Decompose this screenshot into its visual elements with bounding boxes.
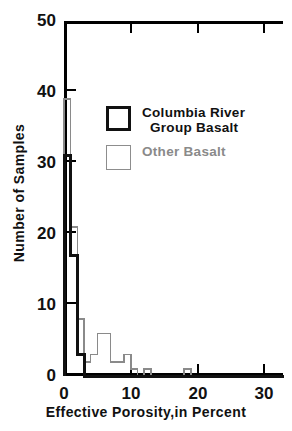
legend-label-crgb-line1: Columbia River [142,105,245,120]
x-tick-label-20: 20 [178,384,218,404]
legend-swatch-icon-crgb [106,106,131,131]
x-tick-label-10: 10 [111,384,151,404]
y-tick-label-0: 0 [8,366,56,386]
legend-item-columbia-river-group-basalt: Columbia RiverGroup Basalt [106,105,245,135]
y-tick-label-50: 50 [8,11,56,31]
legend-item-other-basalt: Other Basalt [106,144,245,170]
plot-area [64,21,283,376]
histogram-chart: 50 40 30 20 10 0 0 10 20 30 Effective Po… [0,0,292,431]
x-tick-label-0: 0 [44,384,84,404]
x-axis-title: Effective Porosity,in Percent [0,404,292,420]
legend-label-other: Other Basalt [142,144,226,159]
legend-label-crgb: Columbia RiverGroup Basalt [142,105,245,135]
legend: Columbia RiverGroup Basalt Other Basalt [106,105,245,179]
legend-swatch-icon-other [106,145,131,170]
y-axis-title: Number of Samples [11,78,27,308]
x-tick-label-30: 30 [244,384,284,404]
legend-label-crgb-line2: Group Basalt [142,120,238,135]
series-columbia-river-group-basalt [64,21,283,376]
